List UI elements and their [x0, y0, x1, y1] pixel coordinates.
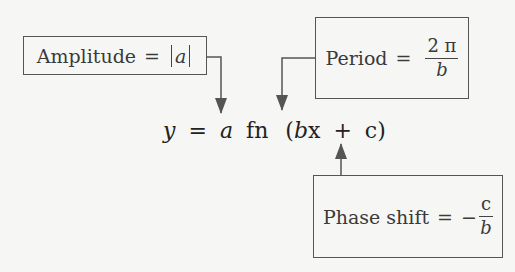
amplitude-equals: = [144, 45, 160, 67]
phase-shift-denominator: b [480, 217, 492, 238]
general-equation: y = a fn (bx + c) [163, 118, 386, 143]
period-arrow [282, 58, 315, 110]
period-arrowhead-icon [276, 95, 288, 111]
phase-shift-numerator: c [479, 195, 493, 217]
phase-shift-arrowhead-icon [335, 143, 347, 159]
phase-shift-equals: = [437, 206, 453, 228]
eq-open-paren: ( [285, 118, 294, 143]
eq-fn: fn [246, 118, 268, 143]
eq-plus: + [333, 118, 351, 143]
abs-bar-right [189, 45, 190, 67]
eq-a: a [220, 118, 233, 143]
period-label: Period [326, 47, 388, 69]
phase-shift-box: Phase shift = − c b [313, 175, 503, 258]
eq-c: c [365, 118, 377, 143]
phase-shift-label: Phase shift [323, 206, 429, 228]
amplitude-box: Amplitude = a [23, 36, 207, 75]
period-box: Period = 2 π b [315, 17, 469, 99]
eq-b: b [294, 118, 308, 143]
period-denominator: b [436, 59, 448, 80]
amplitude-arrowhead-icon [215, 98, 227, 114]
phase-shift-fraction: c b [479, 195, 493, 238]
period-equals: = [396, 47, 412, 69]
eq-x: x [308, 118, 320, 143]
period-fraction: 2 π b [425, 37, 458, 80]
eq-y: y [163, 118, 175, 143]
amplitude-label: Amplitude [37, 45, 136, 67]
phase-shift-sign: − [461, 206, 477, 228]
eq-close-paren: ) [377, 118, 386, 143]
abs-bar-left [171, 45, 172, 67]
amplitude-value: a [175, 45, 186, 67]
period-numerator: 2 π [425, 37, 458, 59]
eq-equals: = [188, 118, 206, 143]
